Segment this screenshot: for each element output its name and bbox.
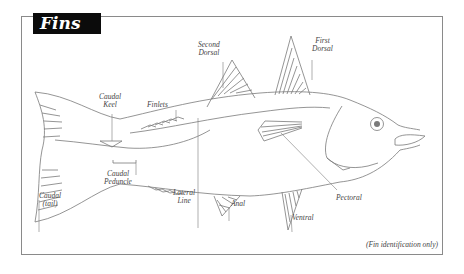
label-second-dorsal: Second Dorsal <box>198 41 220 57</box>
footnote: (Fin identification only) <box>366 240 438 249</box>
gill-cover <box>325 106 378 168</box>
pectoral-fin <box>258 121 302 141</box>
second-dorsal-fin <box>207 60 255 107</box>
fish-illustration <box>0 0 464 274</box>
label-caudal-peduncle: Caudal Peduncle <box>104 170 132 186</box>
label-caudal-keel: Caudal Keel <box>99 93 121 109</box>
mouth <box>395 135 425 145</box>
label-ventral: Ventral <box>292 214 314 222</box>
label-caudal-tail: Caudal (tail) <box>39 192 61 208</box>
label-finlets: Finlets <box>147 101 168 109</box>
label-lateral-line: Lateral Line <box>173 189 195 205</box>
caudal-keel <box>100 141 122 147</box>
upper-finlets <box>141 117 184 129</box>
fish-body-upper <box>35 92 420 130</box>
label-anal: Anal <box>231 200 245 208</box>
label-pectoral: Pectoral <box>336 194 362 202</box>
lateral-line <box>130 107 330 133</box>
caudal-peduncle-bracket <box>113 160 136 163</box>
leader-lines <box>39 60 337 232</box>
first-dorsal-fin <box>275 36 310 95</box>
ventral-fin <box>282 189 302 230</box>
label-first-dorsal: First Dorsal <box>312 37 333 53</box>
